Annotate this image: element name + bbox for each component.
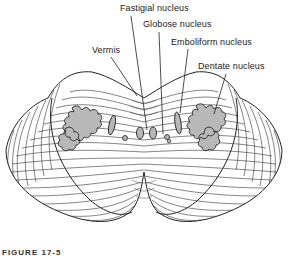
vermis-bands	[130, 100, 158, 198]
leader-emboliform	[180, 49, 188, 113]
cerebellum-outline	[6, 72, 282, 222]
label-dentate-nucleus: Dentate nucleus	[198, 61, 265, 71]
emboliform-nucleus-left	[107, 115, 117, 136]
fastigial-nucleus-right	[150, 127, 157, 139]
globose-nucleus-left	[123, 136, 128, 141]
label-fastigial-nucleus: Fastigial nucleus	[120, 3, 189, 13]
label-vermis: Vermis	[92, 45, 120, 55]
label-globose-nucleus: Globose nucleus	[143, 19, 212, 29]
globose-nucleus-right	[165, 135, 170, 140]
folia-right	[144, 84, 280, 220]
dentate-nucleus-left	[58, 106, 101, 151]
dentate-nucleus-right	[187, 104, 226, 151]
leader-vermis	[111, 57, 137, 96]
folia-left	[8, 84, 144, 220]
emboliform-nucleus-right	[173, 112, 182, 135]
fastigial-nucleus-left	[137, 127, 144, 139]
figure-caption: FIGURE 17-5	[2, 248, 61, 256]
leader-globose	[159, 32, 163, 134]
label-emboliform-nucleus: Emboliform nucleus	[171, 37, 252, 47]
cerebellum-diagram: Fastigial nucleus Globose nucleus Emboli…	[0, 0, 288, 256]
